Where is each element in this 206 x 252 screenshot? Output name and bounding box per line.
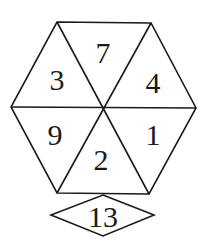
diagonal-left-to-right [11, 107, 196, 108]
puzzle-figure: 7 4 1 2 9 3 13 [0, 0, 206, 252]
triangle-lower-right-number: 1 [146, 118, 161, 151]
hexagon-number-puzzle: 7 4 1 2 9 3 13 [0, 0, 206, 252]
triangle-bottom-number: 2 [94, 143, 109, 176]
triangle-lower-left-number: 9 [48, 118, 63, 151]
diamond-number: 13 [88, 200, 118, 233]
triangle-top-number: 7 [96, 36, 111, 69]
triangle-upper-left-number: 3 [50, 63, 65, 96]
triangle-upper-right-number: 4 [146, 66, 161, 99]
